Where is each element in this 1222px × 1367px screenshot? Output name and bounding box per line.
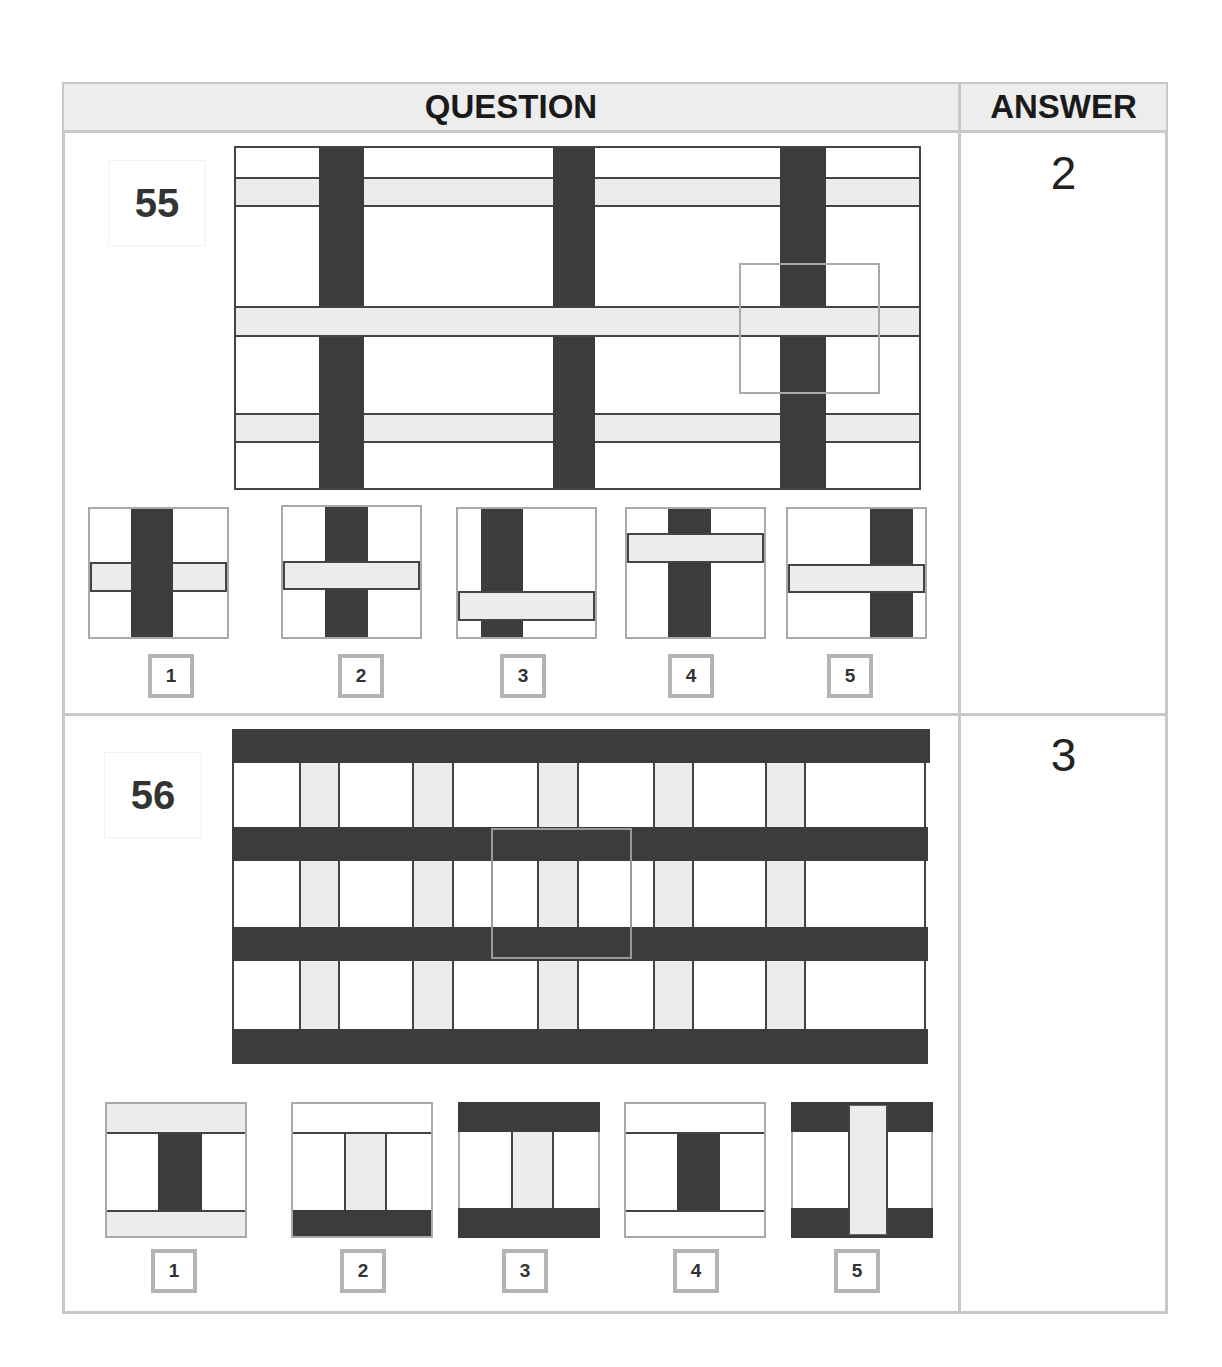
missing-piece-frame xyxy=(739,263,880,394)
option-56-1[interactable] xyxy=(105,1102,247,1238)
option-55-5[interactable] xyxy=(786,507,927,639)
option-55-2[interactable] xyxy=(281,505,422,639)
missing-piece-frame xyxy=(491,828,632,959)
answer-column-header: ANSWER xyxy=(961,84,1166,130)
dark-band xyxy=(232,1029,928,1064)
option-56-5[interactable] xyxy=(791,1102,933,1238)
light-column xyxy=(412,729,454,1064)
option-label-56-3[interactable]: 3 xyxy=(502,1249,548,1293)
option-label-55-3[interactable]: 3 xyxy=(500,654,546,698)
option-label-55-4[interactable]: 4 xyxy=(668,654,714,698)
option-label-55-5[interactable]: 5 xyxy=(827,654,873,698)
option-label-55-1[interactable]: 1 xyxy=(148,654,194,698)
option-56-3[interactable] xyxy=(458,1102,600,1238)
puzzle-55-pattern xyxy=(234,146,921,490)
light-column xyxy=(765,729,806,1064)
option-55-4[interactable] xyxy=(625,507,766,639)
column-divider xyxy=(958,84,961,1312)
answer-55: 2 xyxy=(961,146,1166,200)
option-56-2[interactable] xyxy=(291,1102,433,1238)
light-column xyxy=(653,729,694,1064)
option-55-1[interactable] xyxy=(88,507,229,639)
option-label-56-1[interactable]: 1 xyxy=(151,1249,197,1293)
question-number-56: 56 xyxy=(104,752,202,838)
option-55-3[interactable] xyxy=(456,507,597,639)
row-divider xyxy=(64,713,1166,716)
option-label-55-2[interactable]: 2 xyxy=(338,654,384,698)
question-number-55: 55 xyxy=(108,160,206,246)
option-56-4[interactable] xyxy=(624,1102,766,1238)
option-label-56-2[interactable]: 2 xyxy=(340,1249,386,1293)
option-label-56-5[interactable]: 5 xyxy=(834,1249,880,1293)
question-column-header: QUESTION xyxy=(64,84,958,130)
light-column xyxy=(299,729,340,1064)
puzzle-56-pattern xyxy=(232,729,930,1064)
answer-56: 3 xyxy=(961,728,1166,782)
option-label-56-4[interactable]: 4 xyxy=(673,1249,719,1293)
dark-band xyxy=(232,729,930,763)
header-divider xyxy=(64,130,1166,133)
